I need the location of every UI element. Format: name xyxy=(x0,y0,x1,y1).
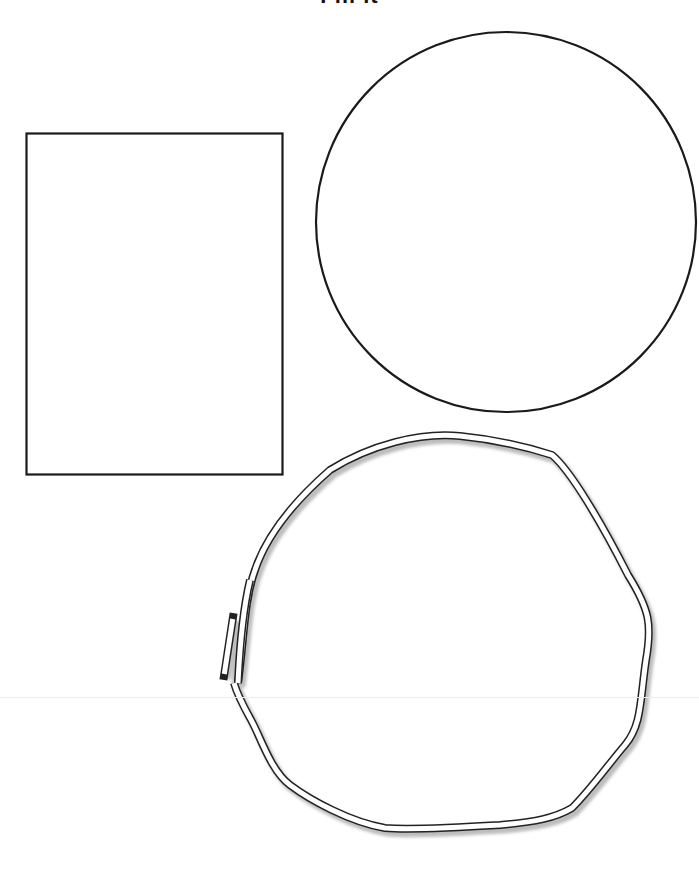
worksheet-page: Fill it xyxy=(0,0,699,889)
rectangle-shape xyxy=(27,134,283,475)
circle-shape xyxy=(316,32,696,412)
shapes-canvas xyxy=(0,0,699,889)
rope-loop-shape xyxy=(224,435,652,833)
page-fold-line xyxy=(0,697,699,698)
